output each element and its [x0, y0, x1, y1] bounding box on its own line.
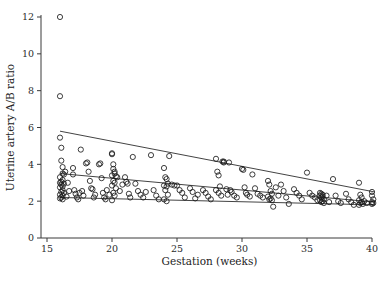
data-point — [242, 185, 247, 190]
y-tick-label: 2 — [28, 196, 34, 207]
data-point — [133, 181, 138, 186]
y-tick-label: 0 — [28, 232, 34, 243]
data-point — [154, 193, 159, 198]
data-point — [276, 193, 281, 198]
uterine-artery-scatter-figure: 024681012152025303540Gestation (weeks)Ut… — [0, 0, 386, 282]
data-point — [148, 153, 153, 158]
data-point — [252, 186, 257, 191]
data-point — [87, 178, 92, 183]
data-point — [291, 187, 296, 192]
data-point — [278, 182, 283, 187]
x-tick-label: 20 — [106, 243, 118, 254]
data-point — [281, 188, 286, 193]
scatter-plot-canvas: 024681012152025303540Gestation (weeks)Ut… — [0, 0, 386, 282]
y-axis-title: Uterine artery A/B ratio — [4, 64, 16, 191]
data-point — [135, 188, 140, 193]
data-point — [86, 169, 91, 174]
data-point — [182, 195, 187, 200]
data-point — [81, 193, 86, 198]
data-point — [343, 191, 348, 196]
x-tick-label: 40 — [366, 243, 378, 254]
data-point — [250, 172, 255, 177]
x-axis-title: Gestation (weeks) — [162, 255, 258, 267]
data-point — [161, 165, 166, 170]
data-point — [117, 188, 122, 193]
data-point — [241, 167, 246, 172]
data-point — [151, 188, 156, 193]
y-tick-label: 10 — [22, 48, 34, 59]
data-point — [299, 197, 304, 202]
data-point — [90, 187, 95, 192]
data-point — [57, 135, 62, 140]
y-tick-label: 6 — [28, 122, 34, 133]
data-point — [190, 189, 195, 194]
data-point — [167, 153, 172, 158]
data-point — [57, 14, 62, 19]
data-point — [304, 170, 309, 175]
y-tick-label: 8 — [28, 85, 34, 96]
x-tick-label: 35 — [301, 243, 313, 254]
data-point — [165, 192, 170, 197]
data-point — [98, 161, 103, 166]
data-point — [59, 145, 64, 150]
data-point — [143, 189, 148, 194]
data-point — [130, 154, 135, 159]
data-point — [271, 204, 276, 209]
data-point — [213, 156, 218, 161]
data-point — [286, 201, 291, 206]
y-tick-label: 12 — [22, 11, 34, 22]
data-point — [226, 160, 231, 165]
y-tick-label: 4 — [28, 159, 34, 170]
data-point — [195, 192, 200, 197]
data-point — [67, 188, 72, 193]
data-point — [333, 193, 338, 198]
upper-reference-line — [60, 131, 375, 192]
x-tick-label: 15 — [41, 243, 53, 254]
data-point — [330, 176, 335, 181]
data-point — [284, 195, 289, 200]
data-point — [187, 186, 192, 191]
data-point — [85, 160, 90, 165]
x-tick-label: 30 — [236, 243, 248, 254]
data-point — [273, 185, 278, 190]
x-tick-label: 25 — [171, 243, 183, 254]
data-point — [59, 158, 64, 163]
data-point — [57, 94, 62, 99]
data-point — [99, 176, 104, 181]
data-point — [356, 180, 361, 185]
data-point — [78, 147, 83, 152]
data-point — [70, 165, 75, 170]
